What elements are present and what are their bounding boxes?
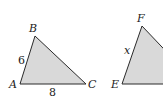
triangle-ef: F E x	[110, 12, 163, 91]
vertex-label-a: A	[8, 78, 17, 91]
triangle-abc-shape	[20, 36, 86, 84]
side-label-ab: 6	[18, 54, 25, 67]
vertex-label-c: C	[88, 78, 97, 91]
similar-triangles-diagram: B A C 6 8 F E x	[0, 0, 163, 96]
side-label-ac: 8	[49, 86, 56, 96]
vertex-label-f: F	[136, 12, 145, 25]
side-label-ef: x	[124, 44, 131, 57]
vertex-label-b: B	[28, 22, 37, 35]
vertex-label-e: E	[110, 78, 119, 91]
triangle-abc: B A C 6 8	[8, 22, 97, 96]
